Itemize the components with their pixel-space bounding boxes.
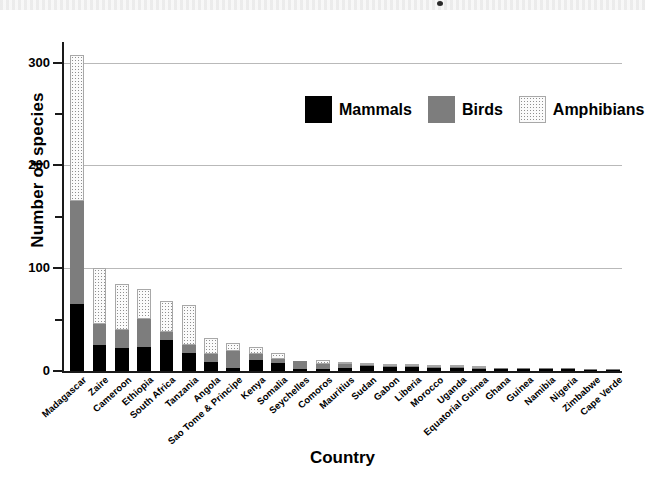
bar-segment-amphibians	[338, 362, 352, 364]
bar-segment-mammals	[249, 360, 263, 371]
legend-item-birds: Birds	[428, 96, 503, 123]
bar-group[interactable]	[93, 268, 107, 371]
bar-group[interactable]	[472, 367, 486, 371]
bar-segment-birds	[405, 366, 419, 367]
bar-segment-birds	[160, 332, 174, 340]
bar-group[interactable]	[137, 289, 151, 371]
bar-segment-birds	[93, 324, 107, 346]
bar-segment-birds	[182, 345, 196, 352]
x-axis-title: Country	[0, 448, 645, 468]
bar-segment-birds	[584, 369, 598, 370]
bar-segment-mammals	[137, 347, 151, 371]
bar-group[interactable]	[338, 363, 352, 371]
bar-group[interactable]	[182, 305, 196, 371]
bar-segment-amphibians	[160, 301, 174, 332]
legend-label-amphibians: Amphibians	[553, 101, 645, 119]
legend-item-amphibians: Amphibians	[519, 96, 645, 123]
bar-group[interactable]	[561, 368, 575, 371]
bar-segment-birds	[249, 354, 263, 360]
bar-group[interactable]	[204, 338, 218, 371]
bar-segment-birds	[338, 364, 352, 368]
bar-segment-amphibians	[271, 353, 285, 359]
bar-group[interactable]	[293, 361, 307, 371]
bar-group[interactable]	[494, 368, 508, 371]
bar-segment-birds	[70, 201, 84, 304]
bar-segment-mammals	[70, 304, 84, 371]
bar-segment-birds	[539, 368, 553, 369]
plot-area	[62, 42, 622, 372]
bar-group[interactable]	[316, 360, 330, 371]
bar-segment-birds	[204, 354, 218, 362]
bar-segment-birds	[271, 359, 285, 363]
y-tick-label: 0	[0, 363, 50, 378]
y-tick-minor	[55, 216, 64, 218]
bar-segment-mammals	[539, 369, 553, 371]
bar-group[interactable]	[405, 365, 419, 371]
bar-segment-amphibians	[249, 347, 263, 353]
bar-segment-mammals	[316, 369, 330, 371]
bar-group[interactable]	[539, 368, 553, 371]
species-by-country-chart: Number of species 0100200300 MadagascarZ…	[0, 0, 645, 484]
bar-segment-amphibians	[115, 284, 129, 330]
bar-segment-birds	[226, 351, 240, 367]
y-tick-label: 200	[0, 157, 50, 172]
y-tick-minor	[55, 319, 64, 321]
y-tick-minor	[55, 113, 64, 115]
bar-segment-birds	[115, 330, 129, 349]
bar-segment-birds	[450, 367, 464, 368]
bar-segment-mammals	[561, 369, 575, 371]
bar-segment-birds	[293, 361, 307, 369]
x-tick-label: Madagascar	[40, 374, 89, 420]
bar-group[interactable]	[427, 365, 441, 371]
legend-label-mammals: Mammals	[339, 101, 412, 119]
bar-segment-birds	[316, 364, 330, 369]
bar-segment-birds	[137, 319, 151, 348]
bar-group[interactable]	[70, 55, 84, 371]
mammals-swatch-icon	[305, 96, 332, 123]
bar-segment-mammals	[160, 340, 174, 371]
bar-segment-mammals	[271, 363, 285, 371]
bar-segment-birds	[383, 366, 397, 367]
bar-segment-mammals	[427, 368, 441, 371]
bar-segment-amphibians	[472, 366, 486, 368]
bar-group[interactable]	[360, 363, 374, 371]
bar-segment-mammals	[293, 369, 307, 371]
legend-label-birds: Birds	[462, 101, 503, 119]
bar-segment-mammals	[606, 370, 620, 371]
y-tick-label: 300	[0, 55, 50, 70]
bar-group[interactable]	[517, 368, 531, 371]
y-tick-major	[53, 370, 64, 372]
bar-segment-amphibians	[70, 55, 84, 201]
bar-group[interactable]	[115, 284, 129, 371]
bar-segment-mammals	[115, 348, 129, 371]
bar-segment-birds	[360, 365, 374, 366]
bar-segment-amphibians	[182, 305, 196, 345]
y-tick-major	[53, 164, 64, 166]
bar-segment-mammals	[338, 368, 352, 371]
bar-segment-birds	[494, 368, 508, 369]
bar-segment-mammals	[204, 362, 218, 371]
bar-group[interactable]	[383, 364, 397, 371]
legend-item-mammals: Mammals	[305, 96, 412, 123]
bar-segment-birds	[517, 368, 531, 369]
bar-segment-mammals	[494, 369, 508, 371]
bar-group[interactable]	[160, 301, 174, 371]
x-axis-line	[62, 371, 622, 373]
bar-group[interactable]	[450, 366, 464, 371]
bar-segment-mammals	[383, 367, 397, 371]
bar-group[interactable]	[226, 343, 240, 371]
bar-segment-birds	[606, 369, 620, 370]
y-tick-major	[53, 62, 64, 64]
bar-group[interactable]	[584, 369, 598, 371]
bar-segment-mammals	[584, 370, 598, 371]
bar-group[interactable]	[606, 369, 620, 371]
birds-swatch-icon	[428, 96, 455, 123]
bar-segment-birds	[472, 368, 486, 369]
bar-group[interactable]	[249, 347, 263, 371]
bar-segment-mammals	[517, 369, 531, 371]
bar-segment-mammals	[182, 353, 196, 372]
bar-segment-mammals	[226, 368, 240, 371]
y-tick-label: 100	[0, 260, 50, 275]
bar-segment-amphibians	[405, 364, 419, 366]
bar-group[interactable]	[271, 353, 285, 372]
